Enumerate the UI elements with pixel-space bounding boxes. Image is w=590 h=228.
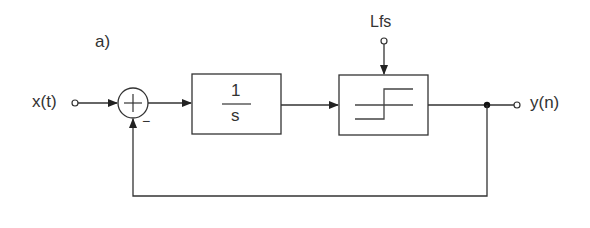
control-label: Lfs [370,13,391,31]
panel-label: a) [95,32,110,52]
integrator-denominator: s [231,106,240,126]
feedback-sign: − [142,113,150,129]
feedback-path [133,105,487,196]
control-terminal [381,38,387,44]
output-label: y(n) [530,93,559,113]
input-label: x(t) [32,92,57,112]
input-terminal [72,100,78,106]
output-terminal [514,102,520,108]
block-diagram [0,0,590,228]
integrator-numerator: 1 [231,81,240,101]
